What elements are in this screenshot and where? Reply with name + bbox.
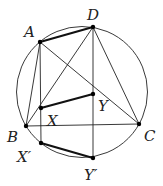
circumcircle bbox=[17, 27, 148, 158]
point-C bbox=[137, 122, 141, 126]
segment-D-B bbox=[26, 27, 93, 126]
label-X: X bbox=[46, 112, 59, 130]
point-B bbox=[24, 124, 28, 128]
thin-segments bbox=[26, 27, 139, 158]
point-X bbox=[39, 106, 43, 110]
label-B: B bbox=[6, 128, 18, 146]
point-Xp bbox=[39, 141, 43, 145]
label-Yp: Y′ bbox=[84, 166, 98, 184]
point-D bbox=[91, 25, 95, 29]
point-A bbox=[38, 40, 42, 44]
segment-B-C bbox=[26, 124, 139, 126]
segment-A-Xp bbox=[40, 42, 41, 143]
geometry-diagram: ADBCXYX′Y′ bbox=[0, 0, 163, 186]
segment-A-D bbox=[40, 27, 93, 42]
label-C: C bbox=[144, 127, 156, 145]
label-A: A bbox=[22, 23, 35, 41]
bold-segments bbox=[40, 27, 93, 158]
label-Y: Y bbox=[98, 97, 110, 115]
point-Y bbox=[91, 92, 95, 96]
label-D: D bbox=[86, 6, 99, 24]
segment-X-Y bbox=[41, 94, 93, 108]
point-Yp bbox=[91, 156, 95, 160]
label-Xp: X′ bbox=[16, 148, 32, 166]
